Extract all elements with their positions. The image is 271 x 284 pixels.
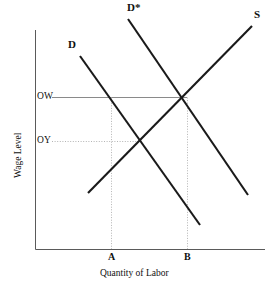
demand-curve-label: D xyxy=(68,39,76,50)
quantity-a-label: A xyxy=(108,252,115,262)
economics-labor-market-figure: D D* S OW OY A B Quantity of Labor Wage … xyxy=(0,0,271,284)
wage-level-oy-label: OY xyxy=(37,136,51,146)
demand-shifted-curve-label: D* xyxy=(127,2,140,13)
x-axis-title: Quantity of Labor xyxy=(100,269,169,279)
y-axis-title: Wage Level xyxy=(14,133,24,178)
supply-curve-label: S xyxy=(254,9,260,20)
quantity-b-label: B xyxy=(184,252,191,262)
wage-level-ow-label: OW xyxy=(37,92,53,102)
supply-curve-s xyxy=(88,26,252,193)
